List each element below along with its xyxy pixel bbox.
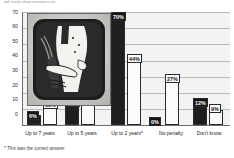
bar-dont-know-dark [193,105,207,125]
bar-up-to-5-years-light [81,104,95,125]
bar-chart-figure: poll results show consumers are 70 60 50… [0,0,234,158]
y-axis-tick-30: 30 [0,68,18,73]
y-axis-tick-70: 70 [0,10,18,15]
y-axis-tick-10: 10 [0,97,18,102]
y-axis-tick-40: 40 [0,53,18,58]
bar-no-penalty-light [165,81,179,125]
hand-writing-illustration-icon [27,13,111,106]
y-axis-tick-0: 0 [0,112,18,117]
bar-label-0: 0% [149,117,161,126]
y-axis-tick-50: 50 [0,39,18,44]
y-axis-tick-20: 20 [0,83,18,88]
plot-area: 6% 11% 12% 13% 70% 44% 0% 27% 12% 9% [22,12,230,126]
x-axis-label-dont-know: Don't know [186,130,232,136]
bar-label-27: 27% [165,74,180,83]
chart-footnote: * This was the correct answer. [4,146,65,152]
bar-label-9: 9% [209,104,221,113]
bar-up-to-2-years-dark [111,12,125,125]
bar-label-70: 70% [111,12,126,21]
bar-up-to-7-years-light [43,107,57,125]
bar-label-6: 6% [27,111,39,120]
bar-label-12-b: 12% [193,98,208,107]
bar-label-44: 44% [127,54,142,63]
y-axis-tick-60: 60 [0,24,18,29]
bar-up-to-2-years-light [127,54,141,125]
bar-up-to-5-years-dark [65,105,79,125]
chart-top-caption: poll results show consumers are [4,0,230,4]
